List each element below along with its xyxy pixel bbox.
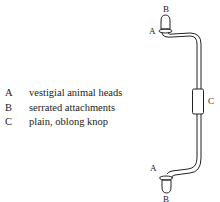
- oblong-knop: [193, 89, 204, 114]
- label-top-b: B: [163, 4, 169, 14]
- label-bottom-a: A: [150, 163, 157, 173]
- bottom-serrated-attachment: [162, 180, 171, 193]
- top-serrated-attachment: [161, 15, 170, 29]
- bottom-animal-head: [160, 176, 173, 180]
- label-top-a: A: [149, 26, 156, 36]
- label-bottom-b: B: [163, 194, 169, 202]
- top-animal-head: [159, 29, 172, 33]
- label-middle-c: C: [208, 96, 214, 106]
- spoon-stem-diagram: B A C A B: [0, 0, 220, 202]
